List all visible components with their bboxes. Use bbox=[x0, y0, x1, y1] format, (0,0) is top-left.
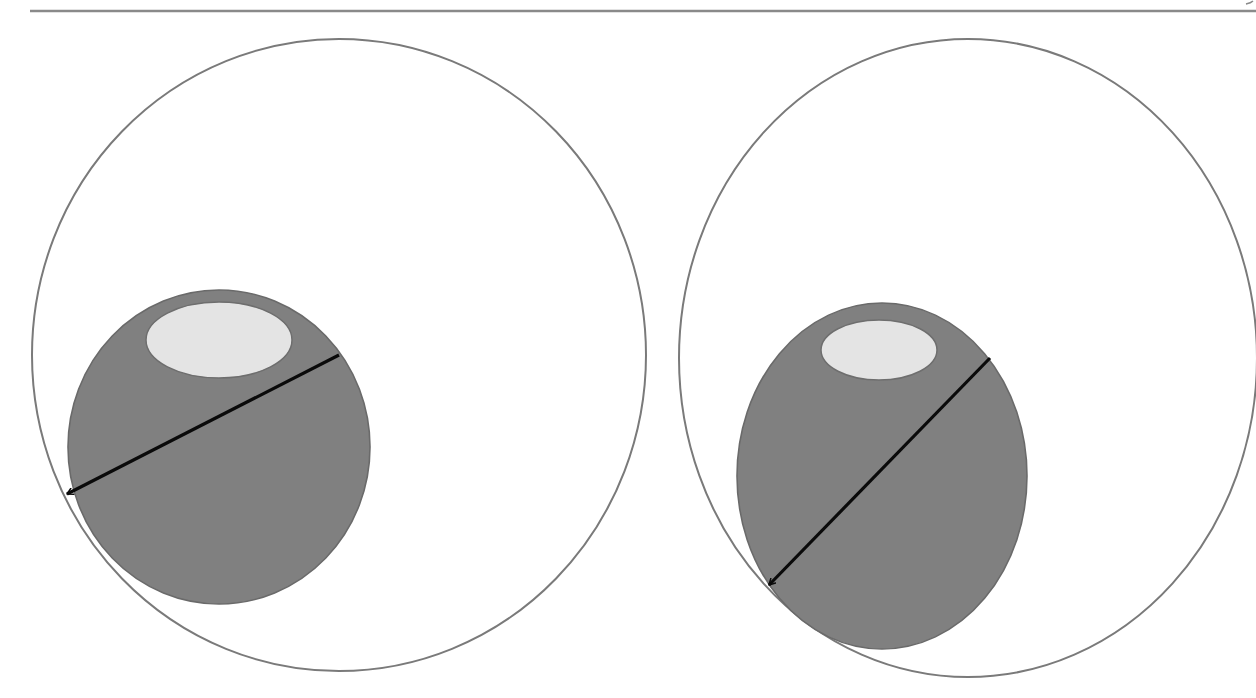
highlight-ellipse bbox=[821, 320, 937, 380]
highlight-ellipse bbox=[146, 302, 292, 378]
diagram-canvas bbox=[0, 0, 1256, 698]
corner-mark-icon bbox=[1246, 1, 1253, 4]
panel-right bbox=[679, 39, 1256, 677]
panel-left bbox=[32, 39, 646, 671]
